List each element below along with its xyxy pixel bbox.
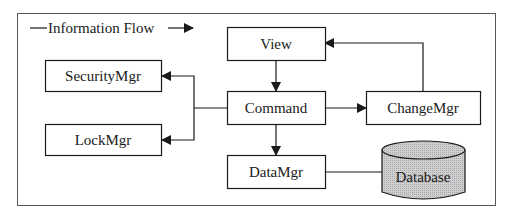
node-securitymgr-label: SecurityMgr bbox=[65, 68, 141, 84]
node-changemgr-label: ChangeMgr bbox=[387, 100, 459, 116]
node-command: Command bbox=[228, 92, 326, 125]
node-command-label: Command bbox=[245, 100, 308, 116]
edge-changemgr-view bbox=[325, 43, 423, 91]
node-datamgr-label: DataMgr bbox=[249, 164, 303, 180]
node-database: Database bbox=[382, 141, 465, 199]
edge-branch-securitymgr bbox=[162, 76, 194, 108]
node-lockmgr: LockMgr bbox=[46, 125, 162, 156]
edge-branch-lockmgr bbox=[162, 108, 194, 140]
legend: Information Flow bbox=[30, 20, 193, 36]
node-securitymgr: SecurityMgr bbox=[46, 61, 162, 92]
node-lockmgr-label: LockMgr bbox=[75, 132, 132, 148]
legend-label: Information Flow bbox=[48, 20, 154, 36]
node-view: View bbox=[228, 28, 326, 61]
node-datamgr: DataMgr bbox=[228, 156, 326, 189]
node-changemgr: ChangeMgr bbox=[367, 92, 481, 125]
diagram-canvas: Information Flow View SecurityMgr Comman… bbox=[0, 0, 509, 221]
node-database-label: Database bbox=[396, 169, 451, 185]
node-view-label: View bbox=[260, 36, 292, 52]
